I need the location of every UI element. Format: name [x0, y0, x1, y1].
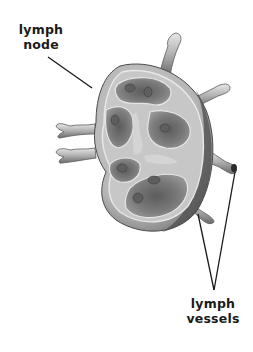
- leader-line-node: [48, 57, 92, 88]
- label-lymph-vessels: lymph vessels: [182, 296, 244, 326]
- lymph-node-diagram: lymph node lymph vessels: [0, 0, 253, 352]
- label-lymph-node-line2: node: [12, 37, 70, 52]
- label-lymph-node-line1: lymph: [12, 22, 70, 37]
- label-lymph-node: lymph node: [12, 22, 70, 52]
- vessel-right-opening: [231, 164, 237, 172]
- vessel-left-upper: [56, 124, 96, 138]
- label-lymph-vessels-line2: vessels: [182, 311, 244, 326]
- label-lymph-vessels-line1: lymph: [182, 296, 244, 311]
- leader-line-vessel-right: [214, 172, 235, 290]
- leader-line-vessel-bottom: [198, 214, 214, 290]
- vessel-left-lower: [56, 148, 96, 163]
